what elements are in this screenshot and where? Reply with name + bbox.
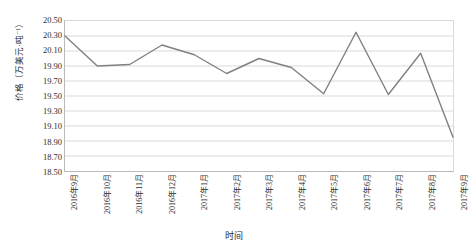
x-axis-tick-labels: 2016年9月2016年10月2016年11月2016年12月2017年1月20… [64, 172, 454, 232]
plot-svg [65, 21, 453, 171]
x-axis-tick: 2017年3月 [263, 174, 274, 210]
x-axis-tick-label: 2017年4月 [296, 174, 307, 210]
x-axis-title: 时间 [0, 229, 467, 242]
x-axis-tick-label: 2017年5月 [328, 174, 339, 210]
x-axis-tick: 2017年6月 [361, 174, 372, 210]
y-axis-tick: 20.30 [43, 30, 62, 40]
x-axis-tick: 2017年8月 [426, 174, 437, 210]
x-axis-tick-label: 2016年12月 [166, 174, 177, 214]
x-axis-tick: 2016年12月 [166, 174, 177, 214]
x-axis-tick-label: 2017年8月 [426, 174, 437, 210]
x-axis-tick-label: 2017年9月 [458, 174, 469, 210]
y-axis-title: 价格（万美元·吨⁻¹） [12, 0, 24, 130]
y-axis-tick: 19.10 [43, 121, 62, 131]
plot-area [64, 20, 454, 172]
price-series-line [65, 32, 453, 137]
x-axis-tick: 2017年4月 [296, 174, 307, 210]
gridlines [65, 36, 453, 156]
x-axis-tick-label: 2017年2月 [231, 174, 242, 210]
y-axis-tick: 18.50 [43, 167, 62, 177]
x-axis-tick: 2017年5月 [328, 174, 339, 210]
x-axis-tick-label: 2017年6月 [361, 174, 372, 210]
y-axis-tick: 19.70 [43, 76, 62, 86]
x-axis-tick-label: 2017年7月 [393, 174, 404, 210]
y-axis-tick-labels: 20.5020.3020.1019.9019.7019.5019.3019.10… [26, 0, 62, 246]
x-axis-tick: 2016年10月 [101, 174, 112, 214]
x-axis-tick-label: 2016年9月 [68, 174, 79, 210]
y-axis-tick: 18.70 [43, 152, 62, 162]
x-axis-tick: 2017年1月 [198, 174, 209, 210]
y-axis-tick: 20.10 [43, 45, 62, 55]
y-axis-tick: 19.50 [43, 91, 62, 101]
y-axis-tick: 18.90 [43, 137, 62, 147]
x-axis-tick: 2016年9月 [68, 174, 79, 210]
x-axis-tick: 2017年2月 [231, 174, 242, 210]
x-axis-tick-label: 2016年10月 [101, 174, 112, 214]
x-axis-tick: 2017年9月 [458, 174, 469, 210]
y-axis-tick: 20.50 [43, 15, 62, 25]
x-axis-tick-label: 2017年1月 [198, 174, 209, 210]
x-axis-tick-label: 2017年3月 [263, 174, 274, 210]
x-axis-tick: 2017年7月 [393, 174, 404, 210]
x-axis-tick: 2016年11月 [133, 174, 144, 214]
x-axis-tick-label: 2016年11月 [133, 174, 144, 214]
y-axis-tick: 19.90 [43, 61, 62, 71]
y-axis-tick: 19.30 [43, 106, 62, 116]
